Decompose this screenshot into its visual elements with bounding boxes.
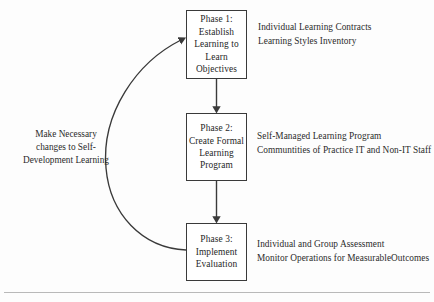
phase-box-2: Phase 2: Create Formal Learning Program <box>186 113 247 181</box>
annotation-phase-2: Self-Managed Learning Program Communtiti… <box>257 130 431 157</box>
phase-2-line-2: Create Formal <box>189 135 244 147</box>
bottom-divider-rule <box>4 292 430 293</box>
phase-3-line-3: Evaluation <box>196 258 238 270</box>
annotation-phase-3: Individual and Group Assessment Monitor … <box>257 238 429 265</box>
annotation-phase-2-line-2: Communtities of Practice IT and Non-IT S… <box>257 144 431 158</box>
phase-3-line-1: Phase 3: <box>200 233 232 245</box>
process-flow-diagram: Phase 1: Establish Learning to Learn Obj… <box>0 0 434 302</box>
annotation-phase-2-line-1: Self-Managed Learning Program <box>257 130 431 144</box>
annotation-phase-1: Individual Learning Contracts Learning S… <box>258 21 372 48</box>
feedback-label-line-2: changes to Self- <box>10 141 122 154</box>
feedback-label-line-1: Make Necessary <box>10 128 122 141</box>
phase-box-1: Phase 1: Establish Learning to Learn Obj… <box>186 10 247 79</box>
annotation-phase-3-line-1: Individual and Group Assessment <box>257 238 429 252</box>
phase-1-line-4: Learn <box>205 51 227 63</box>
phase-2-line-4: Program <box>200 159 233 171</box>
annotation-phase-1-line-2: Learning Styles Inventory <box>258 35 372 49</box>
phase-1-line-1: Phase 1: <box>200 13 232 25</box>
annotation-phase-3-line-2: Monitor Operations for MeasurableOutcome… <box>257 252 429 266</box>
phase-1-line-5: Objectives <box>196 63 237 75</box>
phase-3-line-2: Implement <box>196 246 238 258</box>
phase-2-line-1: Phase 2: <box>200 122 232 134</box>
feedback-loop-label: Make Necessary changes to Self- Developm… <box>10 128 122 168</box>
phase-2-line-3: Learning <box>199 147 234 159</box>
feedback-label-line-3: Development Learning <box>10 154 122 167</box>
annotation-phase-1-line-1: Individual Learning Contracts <box>258 21 372 35</box>
phase-box-3: Phase 3: Implement Evaluation <box>186 223 247 281</box>
phase-1-line-3: Learning to <box>194 38 239 50</box>
phase-1-line-2: Establish <box>199 26 234 38</box>
